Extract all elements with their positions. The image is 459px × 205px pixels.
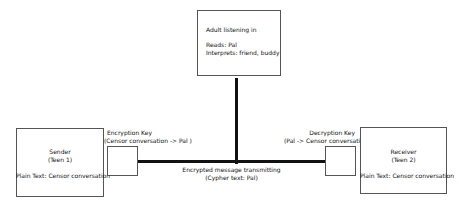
decryption-key-label: Decryption Key	[316, 129, 355, 137]
adult-reads: Reads: Pal	[206, 41, 237, 49]
decryption-key-mapping: (Pal -> Censor conversation)	[284, 137, 370, 145]
sender-name: (Teen 1)	[16, 156, 104, 164]
sender-role: Sender	[16, 148, 104, 156]
encryption-key-box	[107, 146, 138, 176]
encryption-key-label: Encryption Key	[107, 129, 152, 137]
channel-ciphertext: (Cypher text: Pal)	[138, 174, 325, 182]
decryption-key-box	[325, 146, 356, 176]
eavesdrop-line	[235, 78, 238, 164]
adult-interprets: Interprets: friend, buddy	[206, 49, 279, 57]
sender-plaintext: Plain Text: Censor conversation	[16, 172, 104, 180]
receiver-plaintext: Plain Text: Censor conversation	[360, 172, 447, 180]
transmission-line	[138, 160, 325, 163]
receiver-name: (Teen 2)	[360, 156, 447, 164]
encryption-key-mapping: (Censor conversation -> Pal )	[104, 137, 192, 145]
adult-title: Adult listening in	[206, 26, 257, 34]
receiver-role: Receiver	[360, 148, 447, 156]
channel-label: Encrypted message transmitting	[138, 166, 325, 174]
